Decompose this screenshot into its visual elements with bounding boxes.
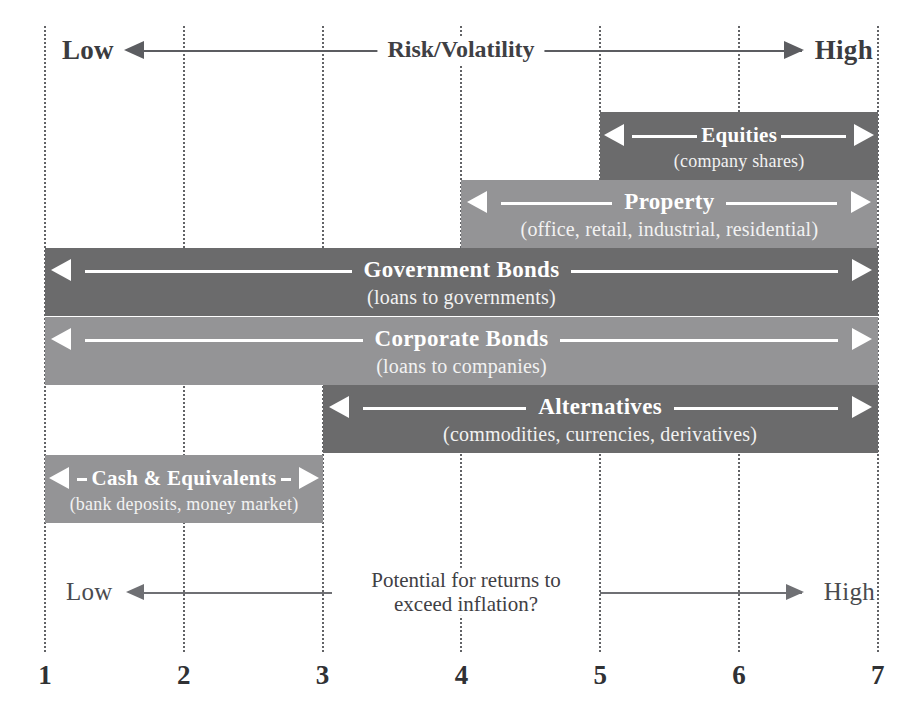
risk-axis-high-label: High	[815, 35, 873, 66]
asset-bar-left-rule	[85, 270, 352, 273]
asset-bar-subtitle: (loans to companies)	[376, 355, 547, 378]
asset-bar-right-rule	[281, 478, 291, 481]
tick-label-3: 3	[316, 660, 330, 691]
asset-bar-title: Property	[612, 189, 726, 215]
asset-bar-right-rule	[674, 407, 838, 410]
asset-bar-subtitle: (commodities, currencies, derivatives)	[443, 423, 757, 446]
returns-axis-caption-line2: exceed inflation?	[394, 592, 538, 616]
asset-bar-subtitle: (loans to governments)	[367, 286, 556, 309]
risk-axis-low-label: Low	[62, 35, 114, 66]
tick-label-4: 4	[455, 660, 469, 691]
asset-bar-title: Government Bonds	[352, 257, 572, 283]
returns-axis-caption-line1: Potential for returns to	[371, 568, 561, 592]
asset-bar-cash-equivalents[interactable]: Cash & Equivalents(bank deposits, money …	[45, 455, 323, 523]
asset-bar-title-row: Alternatives	[323, 392, 878, 422]
asset-bar-title: Cash & Equivalents	[87, 466, 280, 491]
left-arrowhead-icon	[329, 396, 349, 418]
risk-axis-caption: Risk/Volatility	[377, 36, 544, 64]
asset-bar-title-row: Cash & Equivalents	[45, 463, 323, 493]
asset-bar-subtitle: (bank deposits, money market)	[70, 494, 299, 515]
asset-bar-title-row: Property	[461, 187, 877, 217]
asset-bar-title: Corporate Bonds	[363, 326, 561, 352]
right-arrowhead-icon	[852, 259, 872, 281]
risk-volatility-axis: Low Risk/Volatility High	[0, 28, 917, 72]
asset-bar-title-row: Equities	[600, 120, 878, 150]
asset-bar-alternatives[interactable]: Alternatives(commodities, currencies, de…	[323, 385, 878, 453]
returns-axis-low-label: Low	[66, 578, 113, 606]
asset-bar-left-rule	[501, 202, 612, 205]
left-arrowhead-icon	[49, 467, 69, 489]
risk-axis-right-arrowhead	[784, 41, 804, 59]
right-arrowhead-icon	[854, 124, 874, 146]
asset-bar-right-rule	[781, 135, 846, 138]
tick-label-2: 2	[177, 660, 191, 691]
asset-bar-property[interactable]: Property(office, retail, industrial, res…	[461, 180, 877, 248]
tick-label-5: 5	[593, 660, 607, 691]
left-arrowhead-icon	[604, 124, 624, 146]
right-arrowhead-icon	[851, 191, 871, 213]
asset-bar-left-rule	[363, 407, 527, 410]
asset-bar-title: Alternatives	[526, 394, 674, 420]
risk-return-chart: Low Risk/Volatility High Equities(compan…	[0, 0, 917, 701]
right-arrowhead-icon	[852, 328, 872, 350]
returns-axis: Low Potential for returns to exceed infl…	[0, 568, 917, 616]
asset-bar-right-rule	[571, 270, 838, 273]
asset-bar-left-rule	[632, 135, 697, 138]
asset-bar-equities[interactable]: Equities(company shares)	[600, 112, 878, 180]
returns-axis-left-line	[142, 592, 332, 594]
asset-bar-left-rule	[77, 478, 87, 481]
left-arrowhead-icon	[51, 259, 71, 281]
returns-axis-caption: Potential for returns to exceed inflatio…	[363, 568, 569, 616]
asset-bar-right-rule	[726, 202, 837, 205]
right-arrowhead-icon	[852, 396, 872, 418]
asset-bar-subtitle: (company shares)	[674, 151, 805, 172]
asset-bar-left-rule	[85, 339, 363, 342]
asset-bar-title-row: Corporate Bonds	[45, 324, 878, 354]
asset-bar-subtitle: (office, retail, industrial, residential…	[521, 218, 819, 241]
tick-label-7: 7	[871, 660, 885, 691]
returns-axis-right-line	[600, 592, 802, 594]
asset-bar-corporate-bonds[interactable]: Corporate Bonds(loans to companies)	[45, 317, 878, 385]
tick-label-1: 1	[38, 660, 52, 691]
asset-bar-title-row: Government Bonds	[45, 255, 878, 285]
left-arrowhead-icon	[467, 191, 487, 213]
returns-axis-high-label: High	[824, 578, 875, 606]
asset-bar-title: Equities	[697, 123, 781, 148]
asset-bar-right-rule	[560, 339, 838, 342]
returns-axis-right-arrowhead	[786, 584, 804, 600]
risk-axis-left-arrowhead	[124, 41, 144, 59]
asset-bar-government-bonds[interactable]: Government Bonds(loans to governments)	[45, 248, 878, 316]
right-arrowhead-icon	[299, 467, 319, 489]
tick-label-6: 6	[732, 660, 746, 691]
left-arrowhead-icon	[51, 328, 71, 350]
